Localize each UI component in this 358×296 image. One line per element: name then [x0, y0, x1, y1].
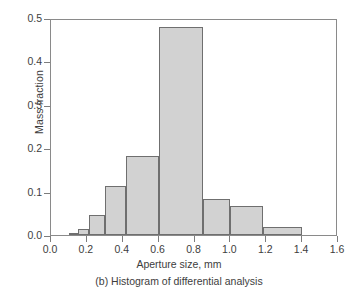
x-tick-mark: [265, 236, 266, 242]
x-tick-mark: [86, 236, 87, 242]
y-tick-mark: [44, 19, 50, 20]
y-tick-label: 0.0: [12, 230, 42, 241]
histogram-bar: [69, 233, 78, 235]
histogram-bar: [263, 227, 302, 235]
x-tick-mark: [194, 236, 195, 242]
x-tick-label: 1.0: [212, 243, 246, 255]
histogram-bar: [105, 186, 127, 235]
plot-frame: [50, 19, 337, 236]
x-tick-label: 0.4: [105, 243, 139, 255]
histogram-bar: [230, 206, 262, 236]
plot-area: [51, 20, 336, 235]
histogram-bar: [78, 229, 89, 236]
histogram-bar: [126, 156, 158, 235]
x-tick-mark: [301, 236, 302, 242]
y-axis-label: Mass fraction: [33, 37, 45, 167]
histogram-figure: 0.00.10.20.30.40.5 0.00.20.40.60.81.01.2…: [0, 0, 358, 296]
x-tick-mark: [50, 236, 51, 242]
x-tick-label: 0.8: [177, 243, 211, 255]
x-tick-mark: [122, 236, 123, 242]
x-tick-label: 0.2: [69, 243, 103, 255]
x-tick-label: 0.0: [33, 243, 67, 255]
y-tick-mark: [44, 193, 50, 194]
figure-caption: (b) Histogram of differential analysis: [0, 275, 358, 287]
x-tick-mark: [158, 236, 159, 242]
x-tick-label: 1.6: [320, 243, 354, 255]
histogram-bar: [203, 199, 230, 235]
x-tick-label: 1.2: [248, 243, 282, 255]
histogram-bar: [159, 27, 204, 235]
x-tick-mark: [337, 236, 338, 242]
y-tick-label: 0.5: [12, 13, 42, 24]
x-tick-label: 1.4: [284, 243, 318, 255]
histogram-bar: [89, 215, 105, 235]
x-tick-mark: [229, 236, 230, 242]
x-axis-label: Aperture size, mm: [0, 258, 358, 270]
x-tick-label: 0.6: [141, 243, 175, 255]
y-tick-label: 0.1: [12, 187, 42, 198]
